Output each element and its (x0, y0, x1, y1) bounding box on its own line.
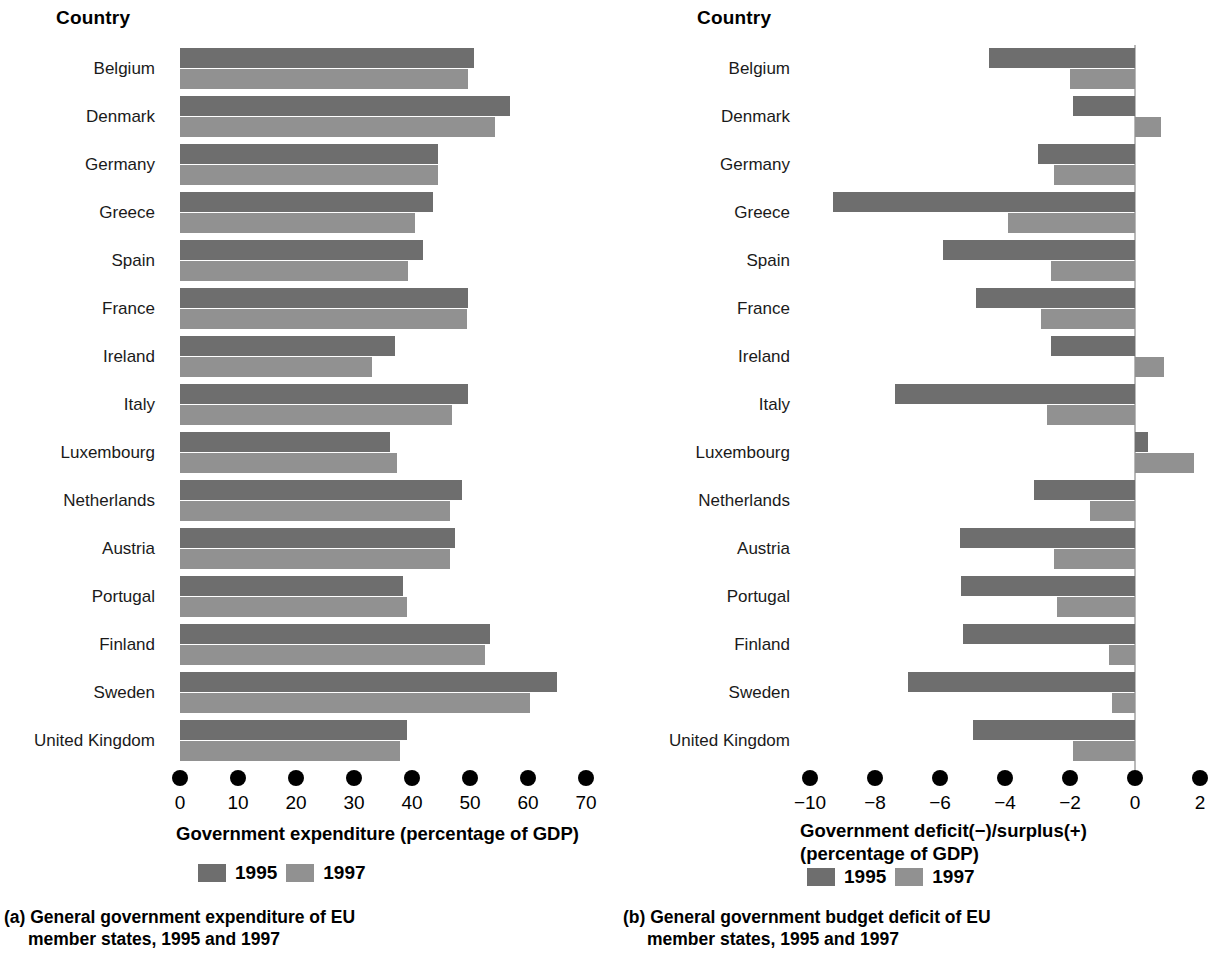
axis-tick-label: 60 (517, 792, 538, 814)
bar-1997-finland (1109, 645, 1135, 665)
chart-panel-expenditure: Country BelgiumDenmarkGermanyGreeceSpain… (0, 0, 620, 959)
bar-1995-luxembourg (1135, 432, 1148, 452)
axis-tick-label: −6 (929, 792, 951, 814)
chart-row: Italy (620, 381, 1219, 429)
chart-row: Portugal (620, 573, 1219, 621)
bar-1995-netherlands (1034, 480, 1135, 500)
caption-deficit: (b) General government budget deficit of… (623, 906, 1213, 950)
chart-row: Sweden (620, 669, 1219, 717)
bar-1997-greece (180, 213, 415, 233)
category-label-sweden: Sweden (620, 669, 790, 717)
chart-row: Netherlands (620, 477, 1219, 525)
chart-row: Ireland (0, 333, 620, 381)
category-label-austria: Austria (0, 525, 155, 573)
bar-1995-portugal (961, 576, 1135, 596)
chart-row: Austria (0, 525, 620, 573)
category-label-finland: Finland (620, 621, 790, 669)
bar-1997-portugal (180, 597, 407, 617)
bar-1995-netherlands (180, 480, 462, 500)
axis-tick-dot (462, 770, 478, 786)
chart-row: Spain (0, 237, 620, 285)
category-label-belgium: Belgium (620, 45, 790, 93)
category-label-ireland: Ireland (0, 333, 155, 381)
legend-swatch-1997 (286, 864, 314, 882)
axis-tick-label: −2 (1059, 792, 1081, 814)
legend-label-1995: 1995 (235, 862, 277, 884)
bar-1997-germany (1054, 165, 1135, 185)
bar-1997-spain (1051, 261, 1136, 281)
bar-1997-luxembourg (1135, 453, 1194, 473)
bar-1997-spain (180, 261, 408, 281)
bar-1995-ireland (1051, 336, 1136, 356)
chart-row: United Kingdom (620, 717, 1219, 765)
caption-line-1: (a) General government expenditure of EU (4, 907, 355, 927)
plot-area-expenditure: BelgiumDenmarkGermanyGreeceSpainFranceIr… (0, 45, 620, 770)
bar-1997-finland (180, 645, 485, 665)
axis-tick-label: 0 (1130, 792, 1141, 814)
chart-panel-deficit: Country BelgiumDenmarkGermanyGreeceSpain… (620, 0, 1219, 959)
bar-1995-austria (180, 528, 455, 548)
axis-tick-dot (578, 770, 594, 786)
bar-1995-france (180, 288, 468, 308)
axis-tick-dot (520, 770, 536, 786)
bar-1995-united-kingdom (180, 720, 407, 740)
chart-row: Greece (0, 189, 620, 237)
legend-expenditure: 19951997 (198, 862, 366, 884)
axis-tick-dot (1192, 770, 1208, 786)
column-header-country-a: Country (56, 7, 130, 29)
bar-1995-finland (180, 624, 490, 644)
axis-tick-label: 2 (1195, 792, 1206, 814)
category-label-france: France (0, 285, 155, 333)
category-label-france: France (620, 285, 790, 333)
axis-tick-label: −8 (864, 792, 886, 814)
axis-tick-label: −10 (794, 792, 826, 814)
axis-tick-label: 30 (343, 792, 364, 814)
bar-1995-belgium (989, 48, 1135, 68)
bar-1995-finland (963, 624, 1135, 644)
axis-tick-label: 0 (175, 792, 186, 814)
bar-1997-united-kingdom (1073, 741, 1135, 761)
bar-1995-ireland (180, 336, 395, 356)
legend-label-1997: 1997 (323, 862, 365, 884)
category-label-ireland: Ireland (620, 333, 790, 381)
category-label-germany: Germany (620, 141, 790, 189)
bar-1997-netherlands (1090, 501, 1136, 521)
axis-tick-label: 20 (285, 792, 306, 814)
chart-row: France (0, 285, 620, 333)
caption-expenditure: (a) General government expenditure of EU… (4, 906, 604, 950)
chart-row: Belgium (0, 45, 620, 93)
bar-1997-ireland (1135, 357, 1164, 377)
axis-tick-label: −4 (994, 792, 1016, 814)
bar-1995-united-kingdom (973, 720, 1136, 740)
bar-1995-spain (943, 240, 1135, 260)
category-label-austria: Austria (620, 525, 790, 573)
bar-1997-ireland (180, 357, 372, 377)
axis-tick-dot (932, 770, 948, 786)
bar-1997-belgium (180, 69, 468, 89)
axis-tick-label: 50 (459, 792, 480, 814)
caption-line-2: member states, 1995 and 1997 (623, 928, 1213, 950)
legend-label-1995: 1995 (844, 866, 886, 888)
category-label-spain: Spain (620, 237, 790, 285)
category-label-netherlands: Netherlands (620, 477, 790, 525)
chart-row: Germany (0, 141, 620, 189)
bar-1997-united-kingdom (180, 741, 400, 761)
plot-area-deficit: BelgiumDenmarkGermanyGreeceSpainFranceIr… (620, 45, 1219, 770)
chart-row: Finland (0, 621, 620, 669)
bar-1997-italy (1047, 405, 1135, 425)
axis-tick-label: 70 (575, 792, 596, 814)
category-label-germany: Germany (0, 141, 155, 189)
bar-1995-denmark (1073, 96, 1135, 116)
chart-row: Greece (620, 189, 1219, 237)
bar-1997-france (180, 309, 467, 329)
legend-swatch-1997 (895, 868, 923, 886)
bar-1995-portugal (180, 576, 403, 596)
category-label-luxembourg: Luxembourg (0, 429, 155, 477)
bar-1997-austria (180, 549, 450, 569)
caption-line-2: member states, 1995 and 1997 (4, 928, 604, 950)
chart-row: France (620, 285, 1219, 333)
bar-1997-greece (1008, 213, 1135, 233)
chart-row: Portugal (0, 573, 620, 621)
category-label-greece: Greece (0, 189, 155, 237)
category-label-italy: Italy (0, 381, 155, 429)
